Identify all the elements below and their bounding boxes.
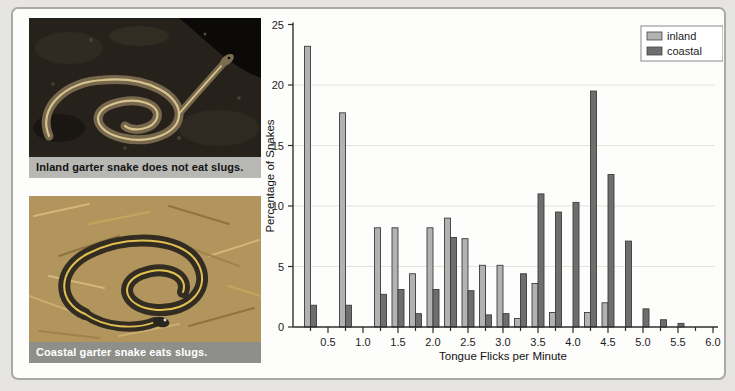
x-tick-label: 4.5 bbox=[600, 336, 615, 348]
y-tick-label: 5 bbox=[278, 261, 284, 273]
x-tick-label: 3.0 bbox=[495, 336, 510, 348]
coastal-bar bbox=[398, 289, 404, 327]
inland-bar bbox=[375, 228, 381, 327]
x-tick-label: 3.5 bbox=[530, 336, 545, 348]
coastal-bar bbox=[556, 212, 562, 327]
coastal-bar bbox=[346, 305, 352, 327]
x-tick-label: 6.0 bbox=[705, 336, 720, 348]
coastal-bar bbox=[381, 294, 387, 327]
coastal-bar bbox=[503, 314, 509, 327]
inland-bar bbox=[427, 228, 433, 327]
inland-bar bbox=[392, 228, 398, 327]
inland-bar bbox=[445, 218, 451, 327]
inland-bar bbox=[480, 265, 486, 327]
coastal-bar bbox=[433, 289, 439, 327]
inland-photo-caption: Inland garter snake does not eat slugs. bbox=[29, 157, 261, 178]
coastal-bar bbox=[661, 320, 667, 327]
x-tick-label: 2.0 bbox=[425, 336, 440, 348]
x-tick-label: 2.5 bbox=[460, 336, 475, 348]
inland-bar bbox=[462, 239, 468, 327]
x-tick-label: 1.5 bbox=[390, 336, 405, 348]
x-tick-label: 5.5 bbox=[670, 336, 685, 348]
y-tick-label: 25 bbox=[272, 19, 284, 31]
coastal-snake-photo bbox=[29, 196, 261, 342]
x-tick-label: 1.0 bbox=[355, 336, 370, 348]
inland-bar bbox=[550, 312, 556, 327]
coastal-bar bbox=[486, 315, 492, 327]
coastal-photo-caption: Coastal garter snake eats slugs. bbox=[29, 342, 261, 363]
y-tick-label: 0 bbox=[278, 321, 284, 333]
x-tick-label: 0.5 bbox=[320, 336, 335, 348]
coastal-bar bbox=[573, 202, 579, 327]
coastal-bar bbox=[521, 274, 527, 327]
coastal-bar bbox=[643, 309, 649, 327]
legend-swatch-inland bbox=[647, 32, 662, 40]
coastal-bar bbox=[626, 241, 632, 327]
inland-bar bbox=[497, 265, 503, 327]
inland-bar bbox=[305, 46, 311, 327]
legend-label-coastal: coastal bbox=[667, 45, 702, 57]
inland-bar bbox=[585, 312, 591, 327]
inland-photo-card: Inland garter snake does not eat slugs. bbox=[29, 18, 261, 178]
y-tick-label: 20 bbox=[272, 79, 284, 91]
tongue-flick-histogram: 05101520250.51.01.52.02.53.03.54.04.55.0… bbox=[263, 12, 723, 374]
inland-bar bbox=[532, 283, 538, 327]
inland-bar bbox=[602, 303, 608, 327]
x-tick-label: 5.0 bbox=[635, 336, 650, 348]
legend-label-inland: inland bbox=[667, 30, 696, 42]
coastal-bar bbox=[416, 314, 422, 327]
inland-bar bbox=[410, 274, 416, 327]
y-axis-title: Percentage of Snakes bbox=[264, 119, 276, 232]
coastal-bar bbox=[468, 291, 474, 327]
coastal-photo-card: Coastal garter snake eats slugs. bbox=[29, 196, 261, 363]
coastal-bar bbox=[451, 237, 457, 327]
x-tick-label: 4.0 bbox=[565, 336, 580, 348]
inland-snake-photo bbox=[29, 18, 261, 157]
histogram-svg: 05101520250.51.01.52.02.53.03.54.04.55.0… bbox=[263, 12, 723, 374]
legend-swatch-coastal bbox=[647, 47, 662, 55]
coastal-bar bbox=[538, 194, 544, 327]
coastal-bar bbox=[608, 175, 614, 327]
figure-panel: Inland garter snake does not eat slugs. bbox=[11, 7, 726, 380]
inland-bar bbox=[340, 113, 346, 327]
coastal-bar bbox=[591, 91, 597, 327]
coastal-bar bbox=[311, 305, 317, 327]
x-axis-title: Tongue Flicks per Minute bbox=[439, 350, 567, 362]
inland-bar bbox=[515, 319, 521, 327]
